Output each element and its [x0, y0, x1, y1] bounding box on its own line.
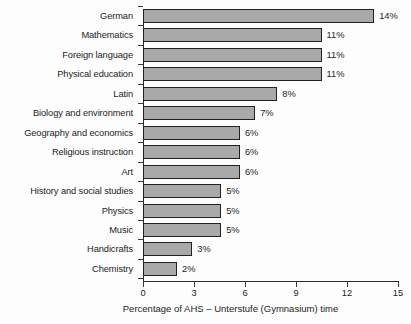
x-axis-tick [347, 282, 348, 287]
category-label: Geography and economics [0, 128, 133, 138]
bar [143, 184, 221, 198]
bar [143, 204, 221, 218]
bar [143, 48, 322, 62]
x-axis-line [143, 281, 399, 282]
bar-row: 5% [143, 184, 398, 198]
bar-row: 11% [143, 67, 398, 81]
x-axis-tick [194, 282, 195, 287]
bar-row: 8% [143, 87, 398, 101]
y-axis-tick [138, 84, 143, 85]
y-axis-tick [138, 201, 143, 202]
y-axis-tick [138, 162, 143, 163]
bar [143, 242, 192, 256]
category-label: Latin [0, 89, 133, 99]
y-axis-tick [138, 103, 143, 104]
bar [143, 165, 240, 179]
bar-row: 3% [143, 242, 398, 256]
y-axis-tick [138, 25, 143, 26]
x-axis-tick-label: 12 [332, 288, 362, 299]
x-axis-tick-label: 9 [281, 288, 311, 299]
y-axis-tick [138, 278, 143, 279]
bar-value-label: 5% [226, 206, 239, 216]
y-axis-tick [138, 45, 143, 46]
bar-row: 5% [143, 204, 398, 218]
x-axis-tick [143, 282, 144, 287]
bar-row: 6% [143, 126, 398, 140]
category-label: Biology and environment [0, 108, 133, 118]
y-axis-tick [138, 123, 143, 124]
category-label: History and social studies [0, 186, 133, 196]
bar [143, 223, 221, 237]
y-axis-tick [138, 259, 143, 260]
category-label: Handicrafts [0, 244, 133, 254]
bar-value-label: 7% [260, 108, 273, 118]
bar-value-label: 5% [226, 186, 239, 196]
bar-chart: GermanMathematicsForeign languagePhysica… [0, 0, 411, 324]
y-axis-tick [138, 181, 143, 182]
bar-value-label: 14% [379, 11, 398, 21]
x-axis-tick [296, 282, 297, 287]
plot-area: 14%11%11%11%8%7%6%6%6%5%5%5%3%2% [143, 9, 398, 281]
category-label: Religious instruction [0, 147, 133, 157]
bar-row: 5% [143, 223, 398, 237]
bar-value-label: 11% [327, 50, 345, 60]
bar-value-label: 6% [245, 167, 258, 177]
y-axis-tick [138, 142, 143, 143]
bar-row: 7% [143, 106, 398, 120]
bar-row: 11% [143, 28, 398, 42]
bar-value-label: 3% [197, 244, 210, 254]
x-axis-tick [245, 282, 246, 287]
x-axis-tick-label: 3 [179, 288, 209, 299]
bar-value-label: 11% [327, 69, 345, 79]
bar-value-label: 5% [226, 225, 239, 235]
x-axis-tick-label: 15 [383, 288, 411, 299]
category-label: Physical education [0, 69, 133, 79]
x-axis-tick-label: 0 [128, 288, 158, 299]
bar [143, 262, 177, 276]
y-axis-tick [138, 6, 143, 7]
bar-row: 2% [143, 262, 398, 276]
bar-value-label: 6% [245, 128, 258, 138]
x-axis-tick-label: 6 [230, 288, 260, 299]
category-label: Foreign language [0, 50, 133, 60]
category-label: Music [0, 225, 133, 235]
bar [143, 67, 322, 81]
category-label: German [0, 11, 133, 21]
x-axis-tick [398, 282, 399, 287]
category-label: Art [0, 167, 133, 177]
bar [143, 87, 277, 101]
y-axis-tick [138, 64, 143, 65]
bar [143, 106, 255, 120]
y-axis-tick [138, 239, 143, 240]
category-label-column: GermanMathematicsForeign languagePhysica… [0, 0, 133, 281]
y-axis-tick [138, 220, 143, 221]
bar-row: 6% [143, 165, 398, 179]
category-label: Chemistry [0, 264, 133, 274]
category-label: Physics [0, 206, 133, 216]
bar [143, 9, 374, 23]
bar-value-label: 2% [182, 264, 195, 274]
bar [143, 145, 240, 159]
category-label: Mathematics [0, 30, 133, 40]
bar-row: 6% [143, 145, 398, 159]
bar-row: 14% [143, 9, 398, 23]
bar-value-label: 11% [327, 30, 345, 40]
bar-value-label: 8% [282, 89, 295, 99]
x-axis-title: Percentage of AHS – Unterstufe (Gymnasiu… [0, 303, 411, 315]
bar [143, 126, 240, 140]
bar-value-label: 6% [245, 147, 258, 157]
bar-row: 11% [143, 48, 398, 62]
bar [143, 28, 322, 42]
